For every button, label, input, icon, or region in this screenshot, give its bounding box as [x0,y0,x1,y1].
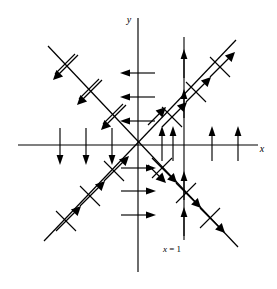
axes-group [18,18,258,272]
x-axis-label: x [259,143,265,154]
vector-ascending-lower-left-group [56,156,129,231]
vector-arrow-down [57,128,64,165]
vector-arrow-down [83,128,90,165]
vector-arrow-up [235,126,242,161]
vector-arrow-down-right-inward [56,206,81,231]
vector-arrow-down-left [101,105,126,130]
vector-arrow-down-right-inward [80,181,105,206]
direction-field-svg: y x x = 1 [0,0,277,289]
vector-arrow-up-right [186,77,211,102]
vector-arrow-down [109,128,116,165]
vector-arrow-up [170,126,177,161]
vector-arrow-down-right [200,208,225,233]
vector-arrow-up [209,126,216,161]
x-equals-one-label-value: = 1 [167,244,181,254]
vector-arrow-up-right [210,52,235,77]
vector-arrow-down-left [77,80,102,105]
vector-negative-x-axis-group [57,128,116,165]
vector-arrow-down-left [53,55,78,80]
vector-arrow-up-right [162,102,187,127]
vector-arrow-down-right [176,183,201,208]
x-equals-one-label: x = 1 [162,244,181,254]
phase-plane-figure: y x x = 1 [0,0,277,289]
vector-arrow-up [181,49,188,78]
vector-ascending-upper-right-group [162,52,235,127]
vector-descending-upper-left-group [53,54,126,130]
y-axis-label: y [126,14,132,25]
vector-positive-x-axis-group [159,126,242,161]
vector-arrow-up [181,207,188,236]
vector-arrow-up [159,126,166,161]
vector-descending-lower-right-group [152,158,225,233]
